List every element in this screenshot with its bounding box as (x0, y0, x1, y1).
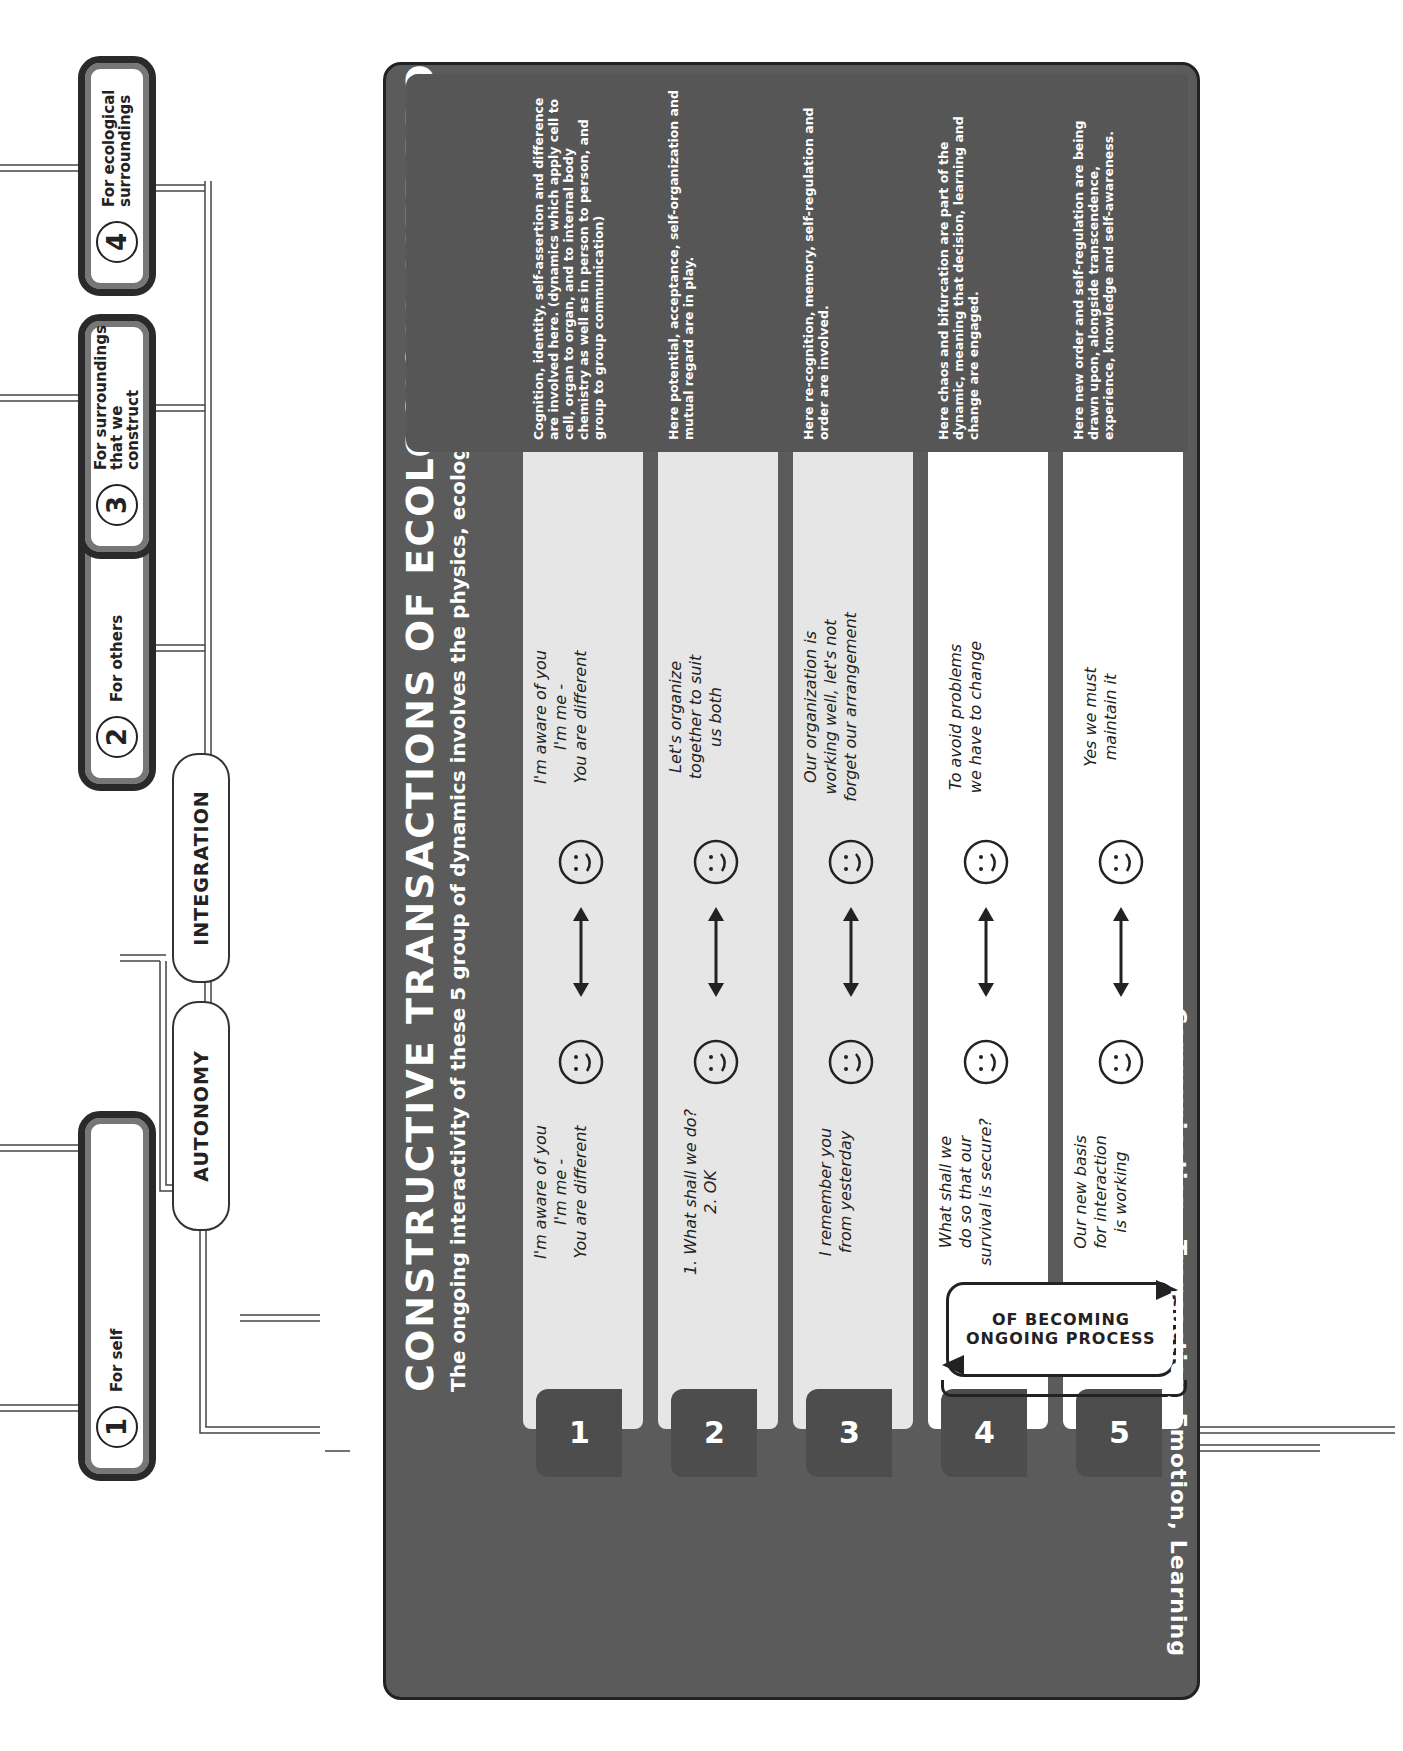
side-label: Communication , Transaction, Emotion, Le… (1166, 1008, 1191, 1657)
row-tab-3: 3 (806, 1389, 892, 1477)
smiley-face-icon (961, 1037, 1011, 1087)
speech-left: I'm aware of youI'm me -You are differen… (531, 1107, 591, 1277)
smiley-face-icon (961, 837, 1011, 887)
row-tab-1: 1 (536, 1389, 622, 1477)
smiley-face-icon (691, 837, 741, 887)
speech-left: I remember youfrom yesterday (816, 1107, 856, 1277)
diagram-stage: 1 For self 2 For others 3 For surroundin… (0, 0, 1403, 1751)
row-tab-4: 4 (941, 1389, 1027, 1477)
double-arrow-icon (691, 907, 741, 997)
speech-right: Yes we mustmaintain it (1081, 617, 1121, 817)
number-circle: 2 (96, 716, 138, 758)
smiley-face-icon (691, 1037, 741, 1087)
smiley-face-icon (1096, 837, 1146, 887)
row-note: Here new order and self-regulation are b… (1063, 74, 1183, 452)
top-box-for-self: 1 For self (78, 1111, 156, 1481)
top-box-for-surroundings-we-construct: 3 For surroundingsthat we construct (78, 314, 156, 559)
smiley-face-icon (556, 837, 606, 887)
row-note: Here re-cognition, memory, self-regulati… (793, 74, 913, 452)
top-box-label: For surroundingsthat we construct (93, 321, 141, 470)
double-arrow-icon (556, 907, 606, 997)
top-box-label: For others (109, 615, 125, 702)
row-tab-2: 2 (671, 1389, 757, 1477)
speech-right: Our organization isworking well, let's n… (801, 597, 861, 817)
double-arrow-icon (1096, 907, 1146, 997)
number-circle: 3 (96, 484, 138, 526)
double-arrow-icon (826, 907, 876, 997)
smiley-face-icon (826, 1037, 876, 1087)
smiley-face-icon (826, 837, 876, 887)
speech-left: Our new basisfor interactionis working (1071, 1107, 1131, 1277)
double-arrow-icon (961, 907, 1011, 997)
integration-pill: INTEGRATION (172, 753, 230, 983)
speech-left: What shall wedo so that oursurvival is s… (936, 1107, 996, 1277)
smiley-face-icon (556, 1037, 606, 1087)
row-note: Here chaos and bifurcation are part of t… (928, 74, 1048, 452)
number-circle: 4 (96, 221, 138, 263)
row-tab-5: 5 (1076, 1389, 1162, 1477)
speech-left: 1. What shall we do?2. OK (681, 1107, 721, 1277)
top-box-label: For self (109, 1329, 125, 1392)
smiley-face-icon (1096, 1037, 1146, 1087)
number-circle: 1 (96, 1406, 138, 1448)
autonomy-pill: AUTONOMY (172, 1001, 230, 1231)
speech-right: Let's organizetogether to suitus both (666, 617, 726, 817)
row-note: Cognition, identity, self-assertion and … (523, 74, 643, 452)
top-box-for-ecological-surroundings: 4 For ecologicalsurroundings (78, 56, 156, 296)
top-box-label: For ecologicalsurroundings (101, 90, 133, 207)
speech-right: To avoid problemswe have to change (946, 617, 986, 817)
bracket (941, 1380, 1187, 1397)
loop-arrow-icon (934, 1270, 1186, 1385)
main-panel: CONSTRUCTIVE TRANSACTIONS OF ECOLOGICAL … (383, 62, 1200, 1700)
row-note: Here potential, acceptance, self-organiz… (658, 74, 778, 452)
speech-right: I'm aware of youI'm me -You are differen… (531, 617, 591, 817)
